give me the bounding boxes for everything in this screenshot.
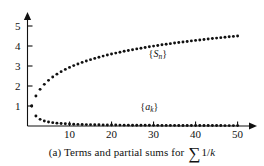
- data-point: [47, 121, 50, 124]
- caption-fraction: 1/: [202, 146, 211, 158]
- data-point: [161, 43, 164, 46]
- figure-container: 1020304050 12345 {Sn}{ak} (a) Terms and …: [0, 0, 264, 166]
- data-point: [106, 54, 109, 57]
- caption-text: (a) Terms and partial sums for: [49, 146, 185, 158]
- caption-variable: k: [210, 146, 215, 158]
- data-point: [60, 70, 63, 73]
- data-point: [224, 124, 227, 127]
- series-label-terms: {ak}: [140, 101, 158, 114]
- y-axis-arrowhead: [24, 12, 31, 20]
- data-point: [186, 40, 189, 43]
- data-point: [232, 35, 235, 38]
- data-point: [236, 35, 239, 38]
- x-tick-label-10: 10: [64, 128, 76, 139]
- data-point: [165, 124, 168, 127]
- data-point: [43, 83, 46, 86]
- y-tick-label-5: 5: [15, 20, 21, 32]
- series-partial-sums-points: [30, 35, 239, 108]
- data-point: [60, 122, 63, 125]
- data-point: [34, 115, 37, 118]
- data-point: [106, 123, 109, 126]
- data-point: [114, 124, 117, 127]
- y-axis-ticks: [28, 26, 33, 106]
- data-point: [165, 43, 168, 46]
- data-point: [81, 61, 84, 64]
- plot-area: 1020304050 12345 {Sn}{ak}: [0, 0, 264, 138]
- data-point: [215, 37, 218, 40]
- data-point: [93, 123, 96, 126]
- data-point: [110, 124, 113, 127]
- data-point: [131, 124, 134, 127]
- series-label-partial-sums: {Sn}: [149, 48, 167, 61]
- data-point: [190, 39, 193, 42]
- data-point: [228, 124, 231, 127]
- data-point: [169, 124, 172, 127]
- data-point: [194, 124, 197, 127]
- data-point: [85, 60, 88, 63]
- data-point: [127, 49, 130, 52]
- data-point: [76, 123, 79, 126]
- series-terms-points: [30, 105, 239, 128]
- data-point: [39, 88, 42, 91]
- data-point: [177, 41, 180, 44]
- data-point: [232, 124, 235, 127]
- x-tick-label-30: 30: [148, 128, 160, 139]
- data-point: [198, 38, 201, 41]
- y-tick-label-4: 4: [15, 40, 21, 52]
- y-tick-label-2: 2: [15, 80, 21, 92]
- chart-svg: 1020304050 12345 {Sn}{ak}: [0, 0, 264, 138]
- data-point: [186, 124, 189, 127]
- data-point: [43, 120, 46, 123]
- data-point: [135, 124, 138, 127]
- figure-caption: (a) Terms and partial sums for ∑ 1/ k: [0, 138, 264, 166]
- x-tick-label-50: 50: [232, 128, 244, 139]
- data-point: [102, 55, 105, 58]
- x-tick-label-20: 20: [106, 128, 118, 139]
- data-point: [215, 124, 218, 127]
- data-point: [85, 123, 88, 126]
- data-point: [177, 124, 180, 127]
- data-point: [148, 124, 151, 127]
- y-tick-label-1: 1: [15, 100, 21, 112]
- data-point: [127, 124, 130, 127]
- data-point: [51, 121, 54, 124]
- data-point: [207, 124, 210, 127]
- data-point: [68, 66, 71, 69]
- data-point: [144, 46, 147, 49]
- data-point: [219, 124, 222, 127]
- data-point: [93, 57, 96, 60]
- data-point: [131, 48, 134, 51]
- data-point: [89, 58, 92, 61]
- data-point: [118, 51, 121, 54]
- data-point: [30, 105, 33, 108]
- data-point: [123, 124, 126, 127]
- data-point: [211, 124, 214, 127]
- data-point: [173, 42, 176, 45]
- data-point: [203, 124, 206, 127]
- data-point: [97, 123, 100, 126]
- data-point: [51, 76, 54, 79]
- data-point: [156, 44, 159, 47]
- data-point: [140, 124, 143, 127]
- data-point: [169, 42, 172, 45]
- data-point: [198, 124, 201, 127]
- x-axis-arrowhead: [249, 122, 257, 129]
- y-axis-tick-labels: 12345: [15, 20, 21, 112]
- series-annotations: {Sn}{ak}: [140, 48, 167, 114]
- data-point: [81, 123, 84, 126]
- x-tick-label-40: 40: [190, 128, 202, 139]
- data-point: [102, 123, 105, 126]
- data-point: [194, 39, 197, 42]
- data-point: [72, 64, 75, 67]
- data-point: [97, 56, 100, 59]
- data-point: [39, 118, 42, 121]
- data-point: [135, 47, 138, 50]
- summation-symbol: ∑: [188, 145, 200, 162]
- data-point: [173, 124, 176, 127]
- data-point: [118, 124, 121, 127]
- data-point: [72, 123, 75, 126]
- data-point: [123, 50, 126, 53]
- data-point: [34, 95, 37, 98]
- data-point: [76, 62, 79, 65]
- data-point: [144, 124, 147, 127]
